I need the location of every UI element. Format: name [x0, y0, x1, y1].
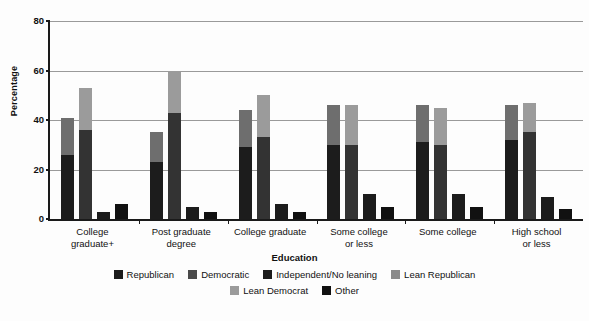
- x-axis-tick-mark: [405, 219, 406, 224]
- bar-segment: [452, 194, 465, 219]
- bar-segment: [327, 105, 340, 145]
- bar[interactable]: [505, 105, 518, 219]
- x-axis-tick-label: High schoolor less: [492, 226, 581, 250]
- legend-label: Lean Republican: [404, 269, 475, 280]
- bar-segment: [150, 132, 163, 162]
- plot-inner: 020406080: [50, 21, 583, 219]
- bar[interactable]: [61, 118, 74, 219]
- legend-swatch-icon: [114, 270, 123, 279]
- bar-segment: [79, 88, 92, 130]
- bar-segment: [61, 118, 74, 155]
- bar-segment: [150, 162, 163, 219]
- bar-segment: [257, 95, 270, 137]
- bar-segment: [275, 204, 288, 219]
- x-axis-tick-mark: [139, 219, 140, 224]
- legend-item[interactable]: Republican: [114, 269, 175, 280]
- legend-item[interactable]: Lean Democrat: [230, 285, 308, 296]
- bar-segment: [541, 197, 554, 219]
- bar[interactable]: [363, 194, 376, 219]
- y-axis-tick-label: 40: [4, 114, 44, 125]
- bar[interactable]: [204, 212, 217, 219]
- legend-item[interactable]: Other: [322, 285, 359, 296]
- bar-segment: [434, 108, 447, 145]
- bar[interactable]: [523, 103, 536, 219]
- bar-segment: [79, 130, 92, 219]
- bar[interactable]: [293, 212, 306, 219]
- bar[interactable]: [275, 204, 288, 219]
- bar-segment: [327, 145, 340, 219]
- bar-group: [405, 21, 494, 219]
- bar[interactable]: [559, 209, 572, 219]
- bar-segment: [345, 105, 358, 145]
- bar-group: [228, 21, 317, 219]
- bar[interactable]: [434, 108, 447, 219]
- plot-area: 020406080: [48, 21, 583, 221]
- bar[interactable]: [345, 105, 358, 219]
- bar-segment: [257, 137, 270, 219]
- bar-segment: [416, 105, 429, 142]
- legend-item[interactable]: Democratic: [188, 269, 249, 280]
- bar[interactable]: [168, 71, 181, 220]
- bar-group: [50, 21, 139, 219]
- y-axis-tick-label: 60: [4, 65, 44, 76]
- bar-group: [317, 21, 406, 219]
- x-axis-tick-mark: [317, 219, 318, 224]
- bar-group: [494, 21, 583, 219]
- bar-segment: [345, 145, 358, 219]
- bar-segment: [381, 207, 394, 219]
- bar-segment: [559, 209, 572, 219]
- bar-segment: [293, 212, 306, 219]
- x-axis-tick-label: Some collegeor less: [315, 226, 404, 250]
- x-axis-tick-label: College graduate: [226, 226, 315, 238]
- bar-segment: [523, 103, 536, 133]
- bar-segment: [61, 155, 74, 219]
- bar[interactable]: [452, 194, 465, 219]
- y-axis-tick-label: 80: [4, 15, 44, 26]
- legend-label: Lean Democrat: [243, 285, 308, 296]
- legend-row-1: RepublicanDemocraticIndependent/No leani…: [0, 269, 589, 280]
- bar-group: [139, 21, 228, 219]
- bar[interactable]: [115, 204, 128, 219]
- bar-segment: [363, 194, 376, 219]
- x-axis-tick-label: Some college: [403, 226, 492, 238]
- bar[interactable]: [239, 110, 252, 219]
- bar-segment: [239, 110, 252, 147]
- bar-segment: [523, 132, 536, 219]
- bar[interactable]: [257, 95, 270, 219]
- legend-swatch-icon: [188, 270, 197, 279]
- x-axis-tick-mark: [494, 219, 495, 224]
- bar[interactable]: [79, 88, 92, 219]
- bar-segment: [505, 140, 518, 219]
- legend-label: Other: [335, 285, 359, 296]
- legend-swatch-icon: [263, 270, 272, 279]
- bar[interactable]: [150, 132, 163, 219]
- legend-label: Independent/No leaning: [276, 269, 377, 280]
- chart-legend: RepublicanDemocraticIndependent/No leani…: [0, 269, 589, 301]
- bar-segment: [97, 212, 110, 219]
- x-axis-tick-label: Post graduatedegree: [137, 226, 226, 250]
- bar[interactable]: [186, 207, 199, 219]
- legend-swatch-icon: [230, 286, 239, 295]
- bar-segment: [416, 142, 429, 219]
- legend-item[interactable]: Independent/No leaning: [263, 269, 377, 280]
- bar[interactable]: [327, 105, 340, 219]
- x-axis-title: Education: [0, 252, 589, 263]
- legend-swatch-icon: [322, 286, 331, 295]
- bar[interactable]: [97, 212, 110, 219]
- bar[interactable]: [541, 197, 554, 219]
- bar[interactable]: [381, 207, 394, 219]
- legend-label: Republican: [127, 269, 175, 280]
- bar-segment: [239, 147, 252, 219]
- bar[interactable]: [470, 207, 483, 219]
- bar-segment: [168, 113, 181, 219]
- bar-segment: [204, 212, 217, 219]
- legend-item[interactable]: Lean Republican: [391, 269, 475, 280]
- bar-segment: [115, 204, 128, 219]
- bar-segment: [186, 207, 199, 219]
- bar-segment: [434, 145, 447, 219]
- y-axis-tick-label: 0: [4, 213, 44, 224]
- bar[interactable]: [416, 105, 429, 219]
- bar-segment: [168, 71, 181, 113]
- legend-swatch-icon: [391, 270, 400, 279]
- legend-label: Democratic: [201, 269, 249, 280]
